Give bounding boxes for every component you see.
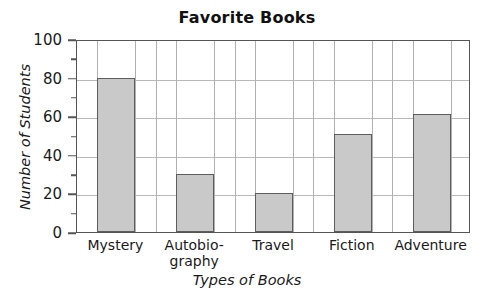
bar-chart: Favorite Books Number of Students 020406…: [0, 0, 494, 294]
gridline-vertical: [313, 41, 314, 232]
bar: [176, 174, 214, 232]
gridline-vertical: [156, 41, 157, 232]
y-axis-tick-label: 100: [16, 31, 62, 49]
x-axis-tick-label: Travel: [234, 237, 313, 253]
x-axis-tick-label: Adventure: [391, 237, 470, 253]
y-axis-tick-mark: [68, 232, 76, 234]
x-axis-title: Types of Books: [0, 272, 494, 288]
y-axis-tick-mark: [68, 155, 76, 157]
y-axis-tick-mark: [68, 78, 76, 80]
gridline-vertical: [235, 41, 236, 232]
bar: [413, 114, 451, 232]
bar: [97, 78, 135, 232]
bar: [255, 193, 293, 232]
gridline-vertical: [293, 41, 294, 232]
gridline-vertical: [214, 41, 215, 232]
y-axis-tick-label: 40: [16, 147, 62, 165]
bar: [334, 134, 372, 232]
gridline-vertical: [451, 41, 452, 232]
y-axis-tick-label: 80: [16, 70, 62, 88]
y-axis-tick-mark: [68, 116, 76, 118]
y-axis-tick-label: 20: [16, 185, 62, 203]
gridline-vertical: [392, 41, 393, 232]
gridline-vertical: [372, 41, 373, 232]
y-axis-tick-label: 0: [16, 224, 62, 242]
x-axis-tick-label: Fiction: [312, 237, 391, 253]
plot-area: [76, 40, 470, 233]
y-axis-tick-label: 60: [16, 108, 62, 126]
y-axis-tick-mark: [68, 39, 76, 41]
y-axis-tick-mark: [68, 194, 76, 196]
chart-title: Favorite Books: [0, 8, 494, 27]
gridline-vertical: [135, 41, 136, 232]
x-axis-tick-label: Mystery: [76, 237, 155, 253]
x-axis-tick-label: Autobio- graphy: [155, 237, 234, 269]
